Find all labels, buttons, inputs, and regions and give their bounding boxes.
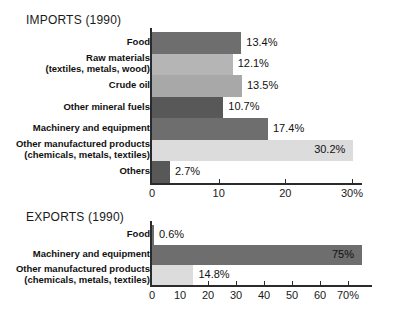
x-tick-label: 0 — [149, 187, 155, 199]
x-tick-mark — [352, 179, 353, 183]
x-tick-mark — [285, 179, 286, 183]
bar-category-label: Crude oil — [109, 80, 150, 91]
bar — [152, 32, 241, 54]
bar-value-label: 30.2% — [314, 143, 345, 155]
x-tick-mark — [348, 281, 349, 285]
x-tick-label: 50 — [286, 289, 298, 301]
bar-category-label: Other manufactured products (chemicals, … — [16, 139, 150, 160]
x-tick-mark — [208, 281, 209, 285]
bar-value-label: 0.6% — [159, 228, 184, 240]
bar — [152, 161, 170, 183]
exports-x-axis — [150, 285, 372, 287]
x-tick-label: 20 — [279, 187, 291, 199]
bar-category-label: Machinery and equipment — [33, 123, 150, 134]
bar-value-label: 14.8% — [198, 268, 229, 280]
x-tick-label: 40 — [258, 289, 270, 301]
imports-chart-panel: IMPORTS (1990) 0102030% 13.4%12.1%13.5%1… — [0, 0, 395, 205]
x-tick-label: 60 — [314, 289, 326, 301]
x-tick-label: 0 — [149, 289, 155, 301]
bar-category-label: Others — [119, 166, 150, 177]
imports-x-axis — [150, 183, 362, 185]
bar-value-label: 13.5% — [247, 79, 278, 91]
bar-value-label: 10.7% — [228, 100, 259, 112]
bar-category-label: Other manufactured products (chemicals, … — [16, 264, 150, 285]
x-tick-label: 10 — [174, 289, 186, 301]
x-tick-mark — [320, 281, 321, 285]
bar-category-label: Food — [127, 37, 150, 48]
bar-value-label: 75% — [332, 248, 354, 260]
exports-chart-panel: EXPORTS (1990) 010203040506070% 0.6%75%1… — [0, 205, 395, 325]
x-tick-label: 10 — [213, 187, 225, 199]
bar-category-label: Food — [127, 229, 150, 240]
bar — [152, 118, 268, 140]
exports-plot-area: 010203040506070% 0.6%75%14.8% FoodMachin… — [0, 205, 395, 325]
bar-category-label: Raw materials (textiles, metals, wood) — [45, 53, 150, 74]
imports-plot-area: 0102030% 13.4%12.1%13.5%10.7%17.4%30.2%2… — [0, 0, 395, 205]
x-tick-mark — [236, 281, 237, 285]
bar — [152, 265, 193, 285]
bar — [152, 97, 223, 119]
x-tick-mark — [264, 281, 265, 285]
bar-category-label: Machinery and equipment — [33, 249, 150, 260]
bar-value-label: 13.4% — [246, 36, 277, 48]
bar — [152, 225, 154, 245]
x-tick-label: 20 — [202, 289, 214, 301]
x-tick-label: 30 — [230, 289, 242, 301]
x-tick-mark — [292, 281, 293, 285]
bar — [152, 75, 242, 97]
x-tick-label: 70% — [337, 289, 359, 301]
bar — [152, 245, 362, 265]
x-tick-label: 30% — [341, 187, 363, 199]
x-tick-mark — [219, 179, 220, 183]
bar-value-label: 12.1% — [238, 57, 269, 69]
bar-category-label: Other mineral fuels — [63, 102, 150, 113]
bar-value-label: 17.4% — [273, 122, 304, 134]
bar — [152, 54, 233, 76]
bar-value-label: 2.7% — [175, 165, 200, 177]
